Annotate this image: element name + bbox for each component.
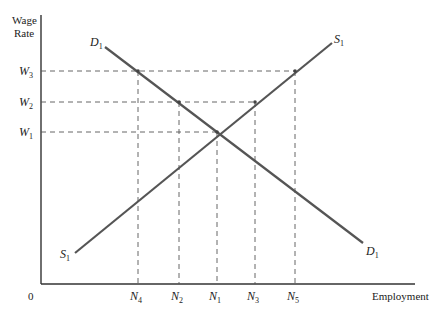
d1-top-label: D1: [89, 35, 103, 51]
point-n4-w3: [136, 69, 140, 73]
w1-label: W1: [19, 125, 33, 141]
n3-label: N3: [246, 289, 259, 305]
point-n5-w3: [293, 69, 297, 73]
labor-market-chart: Wage Rate Employment 0 W3 W2 W1 N4 N2 N1…: [0, 0, 442, 313]
s1-top-label: S1: [334, 32, 344, 48]
n2-label: N2: [170, 289, 183, 305]
w3-label: W3: [19, 64, 33, 80]
point-n3-w2: [253, 100, 257, 104]
s1-bottom-label: S1: [60, 247, 70, 263]
origin-label: 0: [28, 290, 34, 302]
point-n1-w1: [215, 130, 219, 134]
w2-label: W2: [19, 95, 33, 111]
demand-curve-d1: [105, 47, 363, 243]
d1-bottom-label: D1: [365, 244, 379, 260]
x-axis-title: Employment: [372, 290, 429, 302]
point-n2-w2: [177, 100, 181, 104]
supply-curve-s1: [75, 43, 332, 253]
y-axis-title-line1: Wage: [12, 14, 37, 26]
n5-label: N5: [286, 289, 299, 305]
n4-label: N4: [129, 289, 142, 305]
n1-label: N1: [208, 289, 221, 305]
y-axis-title-line2: Rate: [14, 27, 34, 39]
